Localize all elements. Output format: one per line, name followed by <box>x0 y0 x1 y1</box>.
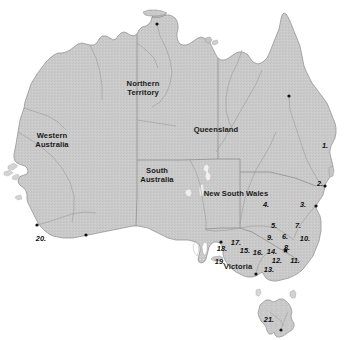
locality-8-label: 8. <box>284 244 290 252</box>
state-label-queensland: Queensland <box>194 126 238 134</box>
city-dot-brisbane <box>323 184 326 187</box>
state-label-line-1: New South Wales <box>204 190 269 198</box>
gulf-islet <box>212 40 218 45</box>
city-dot-perth <box>35 223 38 226</box>
locality-6-label: 6. <box>282 233 288 241</box>
locality-5-label: 5. <box>271 222 277 230</box>
locality-18-label: 18. <box>217 245 227 253</box>
groote-eylandt <box>205 37 212 43</box>
locality-4-label: 4. <box>263 201 269 209</box>
state-label-line-2: Australia <box>35 141 68 150</box>
city-dot-hobart <box>279 328 282 331</box>
locality-10-label: 10. <box>300 235 310 243</box>
state-label-line-1: Queensland <box>194 126 238 134</box>
australia-reference-map: distribution map of specimen localities <box>0 0 349 340</box>
city-dot-albany <box>84 233 87 236</box>
state-label-western-australia: WesternAustralia <box>35 132 68 150</box>
tasmania-landmass <box>256 289 296 337</box>
state-label-line-2: Australia <box>140 176 173 185</box>
state-label-south-australia: SouthAustralia <box>140 167 173 185</box>
spencer-gulf-water <box>193 242 199 256</box>
flinders-island <box>290 290 296 298</box>
locality-19-label: 19. <box>215 258 225 266</box>
locality-20-label: 20. <box>36 235 46 243</box>
locality-16-label: 16. <box>253 249 263 257</box>
city-dot-townsville <box>287 94 290 97</box>
locality-17-label: 17. <box>231 239 241 247</box>
city-dot-darwin <box>155 22 158 25</box>
locality-9-label: 9. <box>267 234 273 242</box>
locality-13-label: 13. <box>264 266 274 274</box>
state-label-new-south-wales: New South Wales <box>204 190 269 198</box>
state-label-northern-territory: NorthernTerritory <box>127 80 160 98</box>
state-label-line-1: Victoria <box>224 263 253 271</box>
locality-15-label: 15. <box>240 247 250 255</box>
state-label-line-2: Territory <box>127 89 160 98</box>
city-dot-adelaide <box>219 240 222 243</box>
locality-3-label: 3. <box>300 201 306 209</box>
locality-1-label: 1. <box>322 142 328 150</box>
locality-7-label: 7. <box>295 222 301 230</box>
locality-21-label: 21. <box>264 316 274 324</box>
city-dot-sydney <box>314 204 317 207</box>
cobourg-peninsula <box>143 10 167 16</box>
city-dot-melbourne <box>254 272 257 275</box>
locality-14-label: 14. <box>267 248 277 256</box>
map-canvas <box>0 0 349 340</box>
locality-12-label: 12. <box>272 257 282 265</box>
king-island <box>256 289 261 296</box>
state-label-victoria: Victoria <box>224 263 253 271</box>
locality-2-label: 2. <box>317 180 323 188</box>
locality-11-label: 11. <box>290 257 300 265</box>
